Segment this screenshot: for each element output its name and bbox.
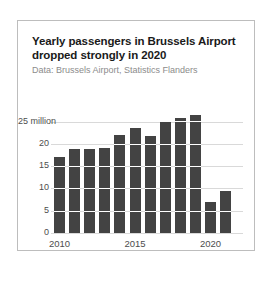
bar-gridline bbox=[99, 166, 110, 167]
bar-gridline bbox=[84, 166, 95, 167]
bar-gridline bbox=[130, 188, 141, 189]
bar-gridline bbox=[175, 144, 186, 145]
bar-gridline bbox=[84, 188, 95, 189]
y-axis-tick: 20 bbox=[18, 138, 49, 149]
bar-gridline bbox=[160, 211, 171, 212]
bar-gridline bbox=[69, 211, 80, 212]
y-axis-tick-label: 20 bbox=[3, 138, 49, 148]
bar-gridline bbox=[114, 166, 125, 167]
bar-2016 bbox=[145, 136, 156, 233]
bar-gridline bbox=[190, 211, 201, 212]
bar-gridline bbox=[220, 211, 231, 212]
bar-gridline bbox=[114, 211, 125, 212]
bar-gridline bbox=[114, 144, 125, 145]
bar-gridline bbox=[190, 166, 201, 167]
bar-2017 bbox=[160, 122, 171, 233]
bar-2019 bbox=[190, 115, 201, 233]
x-axis-tick-2010: 2010 bbox=[40, 238, 80, 249]
y-axis-tick-label: 15 bbox=[3, 160, 49, 170]
bar-2012 bbox=[84, 149, 95, 233]
y-axis-tick-label: 0 bbox=[3, 227, 49, 237]
bar-gridline bbox=[54, 188, 65, 189]
bar-gridline bbox=[69, 166, 80, 167]
x-axis-tick-2020: 2020 bbox=[191, 238, 231, 249]
axis-baseline bbox=[51, 233, 243, 234]
bar-2010 bbox=[54, 157, 65, 233]
bar-2011 bbox=[69, 149, 80, 233]
bar-gridline bbox=[160, 188, 171, 189]
bar-gridline bbox=[130, 166, 141, 167]
bar-chart-plot: 0510152025 million 201020152020 bbox=[18, 21, 256, 252]
bar-2020 bbox=[205, 202, 216, 233]
bar-gridline bbox=[114, 188, 125, 189]
bar-gridline bbox=[145, 144, 156, 145]
bar-gridline bbox=[54, 211, 65, 212]
bar-gridline bbox=[145, 211, 156, 212]
bar-gridline bbox=[130, 211, 141, 212]
bar-gridline bbox=[130, 144, 141, 145]
bar-gridline bbox=[175, 121, 186, 122]
y-axis-tick-label: 10 bbox=[3, 182, 49, 192]
bar-gridline bbox=[99, 211, 110, 212]
x-axis-tick-2015: 2015 bbox=[115, 238, 155, 249]
bar-gridline bbox=[190, 121, 201, 122]
bar-2018 bbox=[175, 118, 186, 233]
y-axis-tick: 0 bbox=[18, 227, 49, 238]
bar-gridline bbox=[190, 144, 201, 145]
bar-gridline bbox=[54, 166, 65, 167]
bar-gridline bbox=[160, 144, 171, 145]
bar-gridline bbox=[160, 166, 171, 167]
bar-2021 bbox=[220, 191, 231, 233]
bar-gridline bbox=[145, 166, 156, 167]
bar-2014 bbox=[114, 135, 125, 233]
bar-gridline bbox=[190, 188, 201, 189]
bar-2015 bbox=[130, 128, 141, 233]
bar-gridline bbox=[145, 188, 156, 189]
bar-gridline bbox=[175, 188, 186, 189]
y-axis-tick: 25 million bbox=[18, 116, 49, 127]
chart-card: Yearly passengers in Brussels Airport dr… bbox=[17, 20, 255, 251]
bar-gridline bbox=[175, 211, 186, 212]
bar-gridline bbox=[84, 211, 95, 212]
bar-gridline bbox=[99, 188, 110, 189]
bar-2013 bbox=[99, 148, 110, 233]
y-axis-tick-label: 5 bbox=[3, 205, 49, 215]
bar-gridline bbox=[175, 166, 186, 167]
y-axis-tick: 5 bbox=[18, 205, 49, 216]
y-axis-tick-label: 25 million bbox=[18, 116, 88, 126]
y-axis-tick: 15 bbox=[18, 160, 49, 171]
y-axis-tick: 10 bbox=[18, 182, 49, 193]
bar-gridline bbox=[205, 211, 216, 212]
bar-gridline bbox=[69, 188, 80, 189]
